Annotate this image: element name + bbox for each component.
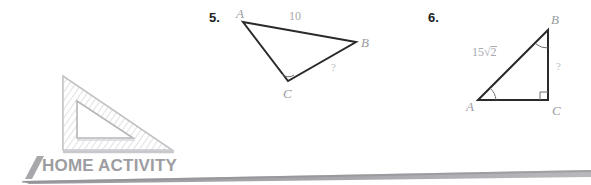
- set-square-triangle-ruler-icon: [63, 76, 174, 152]
- hypotenuse-coefficient: 15: [472, 45, 484, 59]
- angle-arc-at-b-icon: [536, 44, 548, 48]
- worksheet-page: 5. A B C 10 ? 6. A B C: [0, 0, 591, 185]
- home-activity-section: HOME ACTIVITY: [0, 60, 591, 185]
- problem-6-vertex-label-b: B: [551, 12, 559, 28]
- radical-overbar: [491, 46, 497, 47]
- radical-sign-icon: √2: [484, 45, 497, 60]
- home-activity-title: HOME ACTIVITY: [42, 156, 177, 176]
- problem-6-side-label-ab: 15√2: [472, 45, 497, 60]
- radicand: 2: [491, 45, 497, 59]
